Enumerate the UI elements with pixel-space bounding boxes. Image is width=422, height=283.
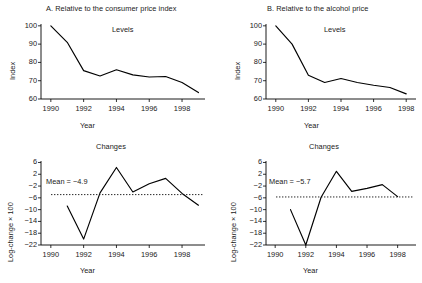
series-line (276, 26, 406, 94)
panel-c-y-tick-label: −22 (1, 240, 37, 249)
panel-c-x-tick-label: 1992 (66, 250, 102, 259)
panel-a-x-tick-label: 1994 (98, 104, 134, 113)
panel-a-x-tick-label: 1998 (164, 104, 200, 113)
panel-b-y-tick-label: 80 (226, 57, 262, 66)
panel-c-y-tick-label: −10 (1, 205, 37, 214)
panel-b-y-tick-label: 90 (226, 39, 262, 48)
panel-a-x-tick-label: 1990 (33, 104, 69, 113)
panel-c-x-tick-label: 1996 (131, 250, 167, 259)
panel-d-y-tick-label: 6 (226, 157, 262, 166)
panel-c-x-tick-label: 1998 (164, 250, 200, 259)
panel-c-x-tick-label: 1990 (33, 250, 69, 259)
panel-c-y-tick-label: −14 (1, 216, 37, 225)
series-line (67, 167, 198, 239)
panel-b-x-tick-label: 1990 (258, 104, 294, 113)
panel-c-y-tick-label: −2 (1, 181, 37, 190)
panel-d-changes: Changes Log-change × 100 Year Mean = −5.… (211, 140, 422, 283)
panel-a-y-tick-label: 100 (1, 21, 37, 30)
panel-a-y-tick-label: 70 (1, 76, 37, 85)
figure-container: A. Relative to the consumer price index … (0, 0, 422, 283)
panel-d-y-tick-label: −2 (226, 181, 262, 190)
panel-a-y-tick-label: 90 (1, 39, 37, 48)
panel-d-y-tick-label: −22 (226, 240, 262, 249)
panel-b-x-tick-label: 1992 (290, 104, 326, 113)
panel-d-y-tick-label: 2 (226, 169, 262, 178)
panel-d-y-tick-label: −14 (226, 216, 262, 225)
panel-a-levels: A. Relative to the consumer price index … (0, 0, 211, 140)
panel-b-x-tick-label: 1996 (356, 104, 392, 113)
panel-a-y-tick-label: 60 (1, 94, 37, 103)
panel-c-y-tick-label: 6 (1, 157, 37, 166)
panel-c-x-tick-label: 1994 (98, 250, 134, 259)
panel-b-levels: B. Relative to the alcohol price Levels … (211, 0, 422, 140)
panel-b-y-tick-label: 60 (226, 94, 262, 103)
series-line (290, 171, 397, 245)
panel-b-x-tick-label: 1994 (323, 104, 359, 113)
panel-d-y-tick-label: −18 (226, 228, 262, 237)
panel-c-y-tick-label: 2 (1, 169, 37, 178)
panel-a-x-tick-label: 1996 (131, 104, 167, 113)
panel-c-y-tick-label: −6 (1, 193, 37, 202)
panel-b-y-tick-label: 70 (226, 76, 262, 85)
panel-c-y-tick-label: −18 (1, 228, 37, 237)
panel-b-y-tick-label: 100 (226, 21, 262, 30)
panel-d-x-tick-label: 1998 (380, 250, 416, 259)
panel-b-x-tick-label: 1998 (388, 104, 422, 113)
panel-a-x-tick-label: 1992 (66, 104, 102, 113)
panel-c-changes: Changes Log-change × 100 Year Mean = −4.… (0, 140, 211, 283)
panel-d-y-tick-label: −6 (226, 193, 262, 202)
panel-a-y-tick-label: 80 (1, 57, 37, 66)
series-line (51, 26, 199, 93)
panel-d-y-tick-label: −10 (226, 205, 262, 214)
